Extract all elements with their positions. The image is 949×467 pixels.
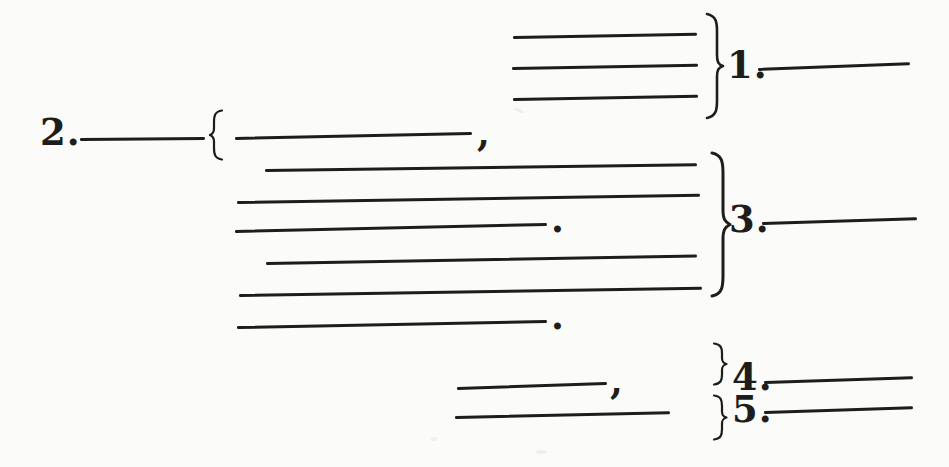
item2-first-list-blank [235,132,472,140]
group1-blank-line-2 [512,64,698,70]
group3-blank-line-4 [266,254,697,264]
scan-smudge [536,450,547,454]
item5-answer-blank [764,406,913,413]
group3-blank-line-3 [235,223,547,233]
item2-label: 2. [40,114,81,151]
item3-label: 3. [729,201,770,238]
item4-source-blank [457,382,607,390]
group3-blank-line-1 [265,163,697,171]
group1-blank-line-1 [513,33,697,39]
scan-smudge [514,107,524,114]
scan-smudge [430,437,438,441]
item3-answer-blank [762,217,917,224]
group1-blank-line-3 [513,95,698,101]
worksheet-page: 1. 2. , . 3. . , 4. 5. [0,0,949,467]
period-after-group3-third-blank: . [551,201,564,238]
group3-blank-line-5 [239,287,702,297]
item1-answer-blank [758,62,910,70]
item1-label: 1. [727,47,768,84]
item2-blank [80,137,205,141]
right-brace-item4 [711,342,729,386]
period-after-blank-below-group3: . [551,298,564,335]
item4-answer-blank [764,376,913,383]
item5-source-blank [455,411,670,418]
left-brace-item2 [209,109,225,161]
comma-after-item2-first-blank: , [477,115,490,152]
right-brace-item1 [703,12,725,120]
right-brace-item5 [711,394,729,441]
item5-label: 5. [732,391,773,428]
blank-below-group3 [237,320,547,329]
group3-blank-line-2 [237,194,700,204]
comma-after-item4-blank: , [610,363,623,400]
